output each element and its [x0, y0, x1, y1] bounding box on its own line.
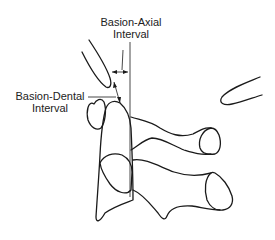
diagram-canvas: Basion-Axial Interval Basion-Dental Inte… [0, 0, 275, 240]
axis-lower-contour [133, 160, 211, 175]
basion-axial-label-line2: Interval [96, 28, 166, 40]
basion-shape [82, 40, 111, 88]
axis-spinous-process [205, 172, 232, 210]
atlas-posterior-tip [199, 128, 220, 154]
arrowhead-up [113, 82, 117, 88]
axis-spinous-lower [133, 190, 220, 219]
basion-axial-leader [122, 50, 123, 70]
basion-axial-label: Basion-Axial Interval [96, 16, 166, 40]
arrowhead-right [123, 70, 128, 74]
atlas-upper-contour [131, 117, 211, 136]
axis-inner-contour [100, 154, 132, 193]
basion-dental-label-line2: Interval [12, 102, 88, 114]
basion-dental-label-line1: Basion-Dental [12, 90, 88, 102]
basion-dental-label: Basion-Dental Interval [12, 90, 88, 114]
occipital-contour [221, 77, 262, 105]
arrowhead-left [112, 70, 117, 74]
basion-axial-label-line1: Basion-Axial [96, 16, 166, 28]
